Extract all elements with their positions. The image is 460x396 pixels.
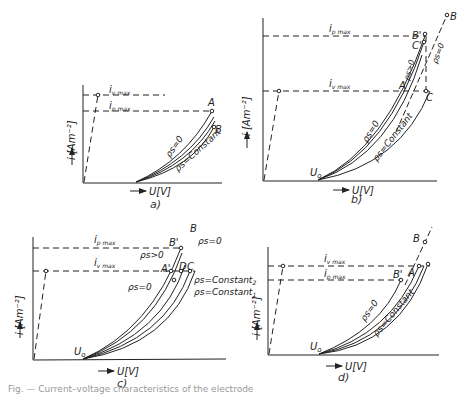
point-B: B [450,11,457,22]
y-axis-label: i [Am⁻²] [251,296,262,336]
point-D: D [179,261,187,272]
label-i-v-max: iv max [94,257,116,269]
ohmic-line [264,91,279,180]
label-i-p-max: ip max [94,234,116,247]
point-C: C [426,92,433,103]
curve-label-rho-constant: ρs=Constant [173,127,223,174]
curve-label-rho-positive: ρs>0 [140,250,164,260]
panel-a [72,85,222,191]
panel-caption-a: a) [150,198,161,211]
curve-label-rho-zero: ρs=0 [128,282,152,292]
point-A: A [398,80,406,91]
ohmic-line [269,266,283,354]
point-B: B [413,233,420,244]
point-B-prime: B' [169,237,179,248]
label-i-p-max: ip max [324,268,346,281]
curve-label-rho-zero-dashed: ρs=0 [430,42,446,65]
x-axis-label: U[V] [149,186,171,197]
ohmic-line [34,271,46,359]
curve-label-rho-constant: ρs=Constant [371,111,415,164]
figure-caption: Fig. — Current–voltage characteristics o… [8,384,253,394]
label-i-v-max: iv max [329,78,351,90]
point-C: C [187,261,194,272]
label-i-p-max: ip max [329,23,351,36]
panel-caption-b: b) [351,193,362,206]
point-C-prime: C' [412,40,422,51]
point-A: A [407,267,415,278]
origin-U0: Uo [74,346,86,359]
label-i-v-max: iv max [324,253,346,265]
label-i-v-max: iv max [109,84,131,96]
curve-label-rho-constant-1: ρs=Constant1 [194,287,256,298]
curve-label-rho-constant-2: ρs=Constant2 [194,275,256,286]
y-axis-label: i [Am⁻²] [66,120,77,160]
curve-label-rho-zero-b: ρs=0 [198,236,222,246]
y-axis-label: i [Am⁻²] [14,295,25,335]
ohmic-line [84,95,98,182]
point-B: B [190,223,197,234]
y-axis-label: i [Am⁻²] [241,96,252,136]
panel-caption-d: d) [338,371,349,384]
label-i-p-max: ip max [109,100,131,113]
point-A: A [207,97,215,108]
curve-label-rho-zero: ρs=0 [358,298,380,323]
figure-canvas: iv max ip max A B ρs=0 ρs=Constant i [Am… [0,0,460,396]
origin-U0: Uo [310,341,322,354]
point-A-prime: A' [160,263,171,274]
origin-U0: Uo [310,167,322,180]
x-axis-label: U[V] [117,366,139,377]
x-axis [33,359,226,360]
point-B-prime: B' [393,269,403,280]
panel-c [20,237,226,371]
